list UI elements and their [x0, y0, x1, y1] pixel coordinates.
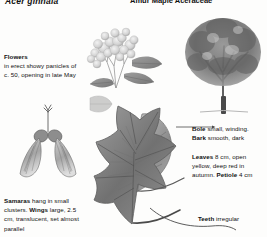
samaras-caption-title: Samaras: [4, 197, 30, 204]
bole-caption-title: Bole: [192, 125, 206, 132]
samaras-caption: Samaras hang in small clusters. Wings la…: [4, 196, 86, 233]
field-guide-page: Acer ginnala Amur Maple Aceraceae: [0, 0, 267, 237]
bole-caption: Bole small, winding. Bark smooth, dark: [192, 124, 266, 142]
wings-caption-title: Wings: [29, 206, 48, 213]
bark-caption-body: smooth, dark: [208, 134, 244, 141]
species-name-heading: Acer ginnala: [5, 0, 58, 6]
petiole-caption-body: 4 cm: [239, 171, 253, 178]
common-name-heading: Amur Maple Aceraceae: [130, 0, 212, 5]
flower-panicle-illustration: [74, 14, 174, 94]
petiole-caption-title: Petiole: [217, 171, 238, 178]
flowers-caption: Flowers in erect showy panicles of c. 50…: [4, 52, 78, 80]
bole-caption-body: small, winding.: [207, 125, 248, 132]
teeth-caption-title: Teeth: [198, 215, 214, 222]
teeth-caption: Teeth irregular: [198, 214, 266, 223]
page-header: Acer ginnala Amur Maple Aceraceae: [0, 0, 267, 8]
teeth-caption-body: irregular: [216, 215, 239, 222]
bark-caption-title: Bark: [192, 134, 206, 141]
bark-leader-line: [176, 116, 216, 122]
leaves-caption: Leaves 8 cm, open yellow, deep red in au…: [192, 152, 266, 180]
leaves-caption-title: Leaves: [192, 153, 213, 160]
flowers-caption-body: in erect showy panicles of c. 50, openin…: [4, 62, 76, 78]
whole-tree-illustration: [180, 8, 266, 116]
flowers-caption-title: Flowers: [4, 52, 78, 61]
paired-samara-illustration: [6, 100, 90, 188]
